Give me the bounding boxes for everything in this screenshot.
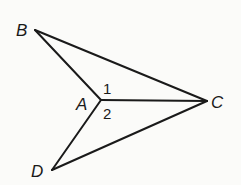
vertex-label-c: C: [211, 93, 224, 112]
angle-label-2: 2: [103, 105, 111, 122]
vertex-label-a: A: [75, 95, 87, 114]
vertex-label-b: B: [16, 21, 27, 40]
segment-ac: [101, 100, 207, 101]
geometry-diagram: B A C D 1 2: [0, 0, 241, 185]
segment-bc: [35, 30, 207, 101]
vertex-label-d: D: [31, 162, 43, 181]
segment-ba: [35, 30, 101, 100]
angle-label-1: 1: [103, 80, 111, 97]
